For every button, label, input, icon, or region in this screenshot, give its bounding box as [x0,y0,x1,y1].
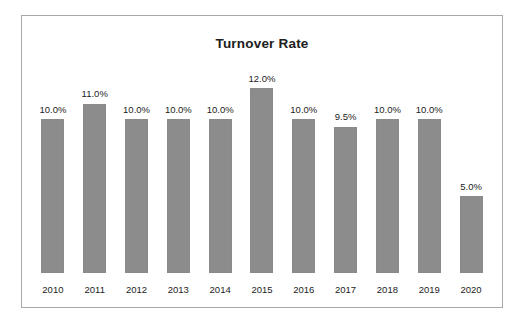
chart-title: Turnover Rate [22,36,502,51]
bar-value-label: 10.0% [374,105,401,115]
plot-area: 10.0%11.0%10.0%10.0%10.0%12.0%10.0%9.5%1… [32,56,492,307]
x-axis-label: 2010 [32,284,74,295]
bar-value-label: 10.0% [123,105,150,115]
x-axis-label: 2014 [199,284,241,295]
bar-slot[interactable]: 11.0% [74,57,116,273]
x-axis-label: 2011 [74,284,116,295]
x-axis-label: 2018 [367,284,409,295]
bar-slot[interactable]: 10.0% [408,57,450,273]
bar[interactable] [167,119,190,273]
bar[interactable] [41,119,64,273]
bar-value-label: 10.0% [207,105,234,115]
bar[interactable] [209,119,232,273]
bar-slot[interactable]: 10.0% [116,57,158,273]
x-axis-label: 2013 [157,284,199,295]
x-axis-label: 2020 [450,284,492,295]
bar[interactable] [125,119,148,273]
bar-slot[interactable]: 10.0% [283,57,325,273]
bar-slot[interactable]: 10.0% [367,57,409,273]
x-axis-label: 2019 [408,284,450,295]
bar-value-label: 11.0% [82,89,108,99]
bar[interactable] [334,127,357,273]
chart-frame: Turnover Rate 10.0%11.0%10.0%10.0%10.0%1… [21,15,503,308]
bar[interactable] [376,119,399,273]
bar-slot[interactable]: 9.5% [325,57,367,273]
bar[interactable] [292,119,315,273]
bar-slot[interactable]: 10.0% [157,57,199,273]
x-axis-label: 2015 [241,284,283,295]
bar-slot[interactable]: 10.0% [199,57,241,273]
bar[interactable] [418,119,441,273]
bar[interactable] [83,104,106,273]
bar-value-label: 10.0% [39,105,66,115]
bar-series: 10.0%11.0%10.0%10.0%10.0%12.0%10.0%9.5%1… [32,57,492,273]
bar-value-label: 9.5% [335,112,357,122]
x-axis-label: 2012 [116,284,158,295]
bar-value-label: 10.0% [416,105,443,115]
x-axis-tick-labels: 2010201120122013201420152016201720182019… [32,279,492,299]
bar[interactable] [460,196,483,273]
bar-value-label: 10.0% [290,105,317,115]
x-axis-label: 2016 [283,284,325,295]
bar-slot[interactable]: 12.0% [241,57,283,273]
bar[interactable] [250,88,273,273]
bar-value-label: 5.0% [460,182,482,192]
bar-slot[interactable]: 5.0% [450,57,492,273]
x-axis-label: 2017 [325,284,367,295]
bar-slot[interactable]: 10.0% [32,57,74,273]
bar-value-label: 10.0% [165,105,192,115]
bar-value-label: 12.0% [249,74,276,84]
